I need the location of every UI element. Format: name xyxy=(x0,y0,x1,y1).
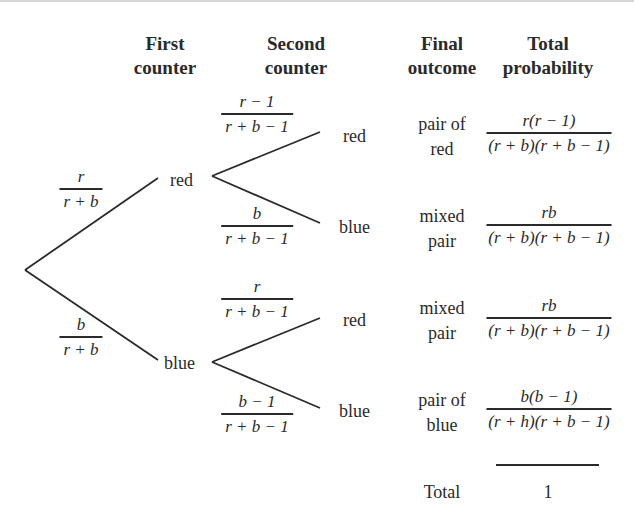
header-line: Total xyxy=(503,32,593,56)
header-final-outcome: Final outcome xyxy=(408,32,477,80)
denominator: r + b xyxy=(59,340,102,360)
fraction-first-red: r r + b xyxy=(59,167,102,212)
numerator: r xyxy=(221,277,293,297)
fraction-blue-red: r r + b − 1 xyxy=(221,277,293,322)
fraction-bar xyxy=(487,132,612,134)
branch-red-red xyxy=(212,132,320,176)
outcome-line: pair of xyxy=(418,112,465,137)
numerator: b xyxy=(221,204,293,224)
numerator: r − 1 xyxy=(221,92,293,112)
branch-blue-red xyxy=(212,318,320,362)
fraction-bar xyxy=(487,408,612,410)
header-first-counter: First counter xyxy=(134,32,196,80)
header-total-probability: Total probability xyxy=(503,32,593,80)
fraction-blue-blue: b − 1 r + b − 1 xyxy=(221,392,293,437)
outcome-pair-of-blue: pair of blue xyxy=(418,388,465,438)
outcome-mixed-pair-2: mixed pair xyxy=(420,296,465,346)
probability-pair-of-blue: b(b − 1) (r + h)(r + b − 1) xyxy=(487,387,612,432)
node-blue-blue: blue xyxy=(339,401,370,421)
fraction-bar xyxy=(59,188,102,190)
header-second-counter: Second counter xyxy=(265,32,327,80)
numerator: r xyxy=(59,167,102,187)
fraction-bar xyxy=(487,317,612,319)
fraction-bar xyxy=(59,336,102,338)
fraction-red-blue: b r + b − 1 xyxy=(221,204,293,249)
probability-mixed-pair-2: rb (r + b)(r + b − 1) xyxy=(487,296,612,341)
node-first-blue: blue xyxy=(164,353,195,373)
outcome-line: pair xyxy=(420,229,465,254)
header-line: counter xyxy=(265,56,327,80)
node-blue-red: red xyxy=(343,310,366,330)
numerator: b(b − 1) xyxy=(487,387,612,407)
node-red-red: red xyxy=(343,126,366,146)
node-first-red: red xyxy=(170,170,193,190)
header-line: counter xyxy=(134,56,196,80)
denominator: r + b xyxy=(59,192,102,212)
fraction-red-red: r − 1 r + b − 1 xyxy=(221,92,293,137)
denominator: r + b − 1 xyxy=(221,302,293,322)
probability-mixed-pair-1: rb (r + b)(r + b − 1) xyxy=(487,203,612,248)
fraction-bar xyxy=(221,413,293,415)
outcome-line: mixed xyxy=(420,296,465,321)
total-value: 1 xyxy=(544,482,553,503)
header-line: probability xyxy=(503,56,593,80)
total-label: Total xyxy=(424,482,461,503)
numerator: b − 1 xyxy=(221,392,293,412)
outcome-pair-of-red: pair of red xyxy=(418,112,465,162)
header-line: Second xyxy=(265,32,327,56)
numerator: r(r − 1) xyxy=(487,111,612,131)
outcome-line: pair xyxy=(420,321,465,346)
fraction-bar xyxy=(221,298,293,300)
numerator: rb xyxy=(487,296,612,316)
denominator: (r + b)(r + b − 1) xyxy=(487,136,612,156)
probability-pair-of-red: r(r − 1) (r + b)(r + b − 1) xyxy=(487,111,612,156)
fraction-first-blue: b r + b xyxy=(59,315,102,360)
node-red-blue: blue xyxy=(339,217,370,237)
numerator: b xyxy=(59,315,102,335)
denominator: (r + h)(r + b − 1) xyxy=(487,412,612,432)
sum-rule xyxy=(496,464,599,466)
fraction-bar xyxy=(487,224,612,226)
denominator: (r + b)(r + b − 1) xyxy=(487,228,612,248)
fraction-bar xyxy=(221,113,293,115)
header-line: outcome xyxy=(408,56,477,80)
denominator: r + b − 1 xyxy=(221,229,293,249)
outcome-line: mixed xyxy=(420,204,465,229)
outcome-mixed-pair-1: mixed pair xyxy=(420,204,465,254)
fraction-bar xyxy=(221,225,293,227)
header-line: Final xyxy=(408,32,477,56)
outcome-line: red xyxy=(418,137,465,162)
outcome-line: pair of xyxy=(418,388,465,413)
denominator: (r + b)(r + b − 1) xyxy=(487,321,612,341)
numerator: rb xyxy=(487,203,612,223)
outcome-line: blue xyxy=(418,413,465,438)
denominator: r + b − 1 xyxy=(221,417,293,437)
denominator: r + b − 1 xyxy=(221,117,293,137)
header-line: First xyxy=(134,32,196,56)
